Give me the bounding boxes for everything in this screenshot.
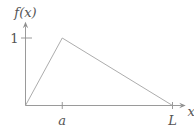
function-figure: aL 1 f(x) x <box>0 0 194 135</box>
y-ticks: 1 <box>10 31 32 46</box>
x-axis-label: x <box>188 104 194 119</box>
y-axis-label: f(x) <box>13 5 36 20</box>
x-tick-label: a <box>58 113 66 128</box>
function-curve <box>26 38 173 106</box>
x-tick-label: L <box>167 113 177 128</box>
y-tick-label: 1 <box>10 31 18 46</box>
function-plot: aL 1 f(x) x <box>0 0 194 135</box>
